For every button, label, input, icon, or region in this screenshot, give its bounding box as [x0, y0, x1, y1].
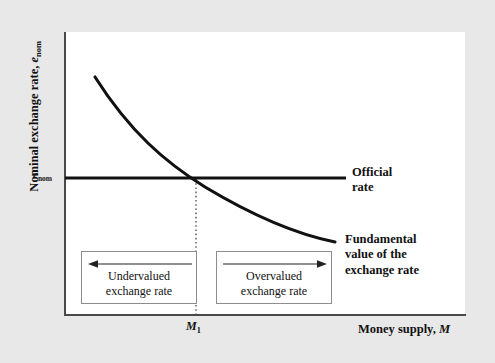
- overvalued-region-line2: exchange rate: [217, 284, 331, 299]
- undervalued-region-line1: Undervalued: [82, 269, 196, 284]
- overvalued-region-box: Overvalued exchange rate: [216, 251, 332, 304]
- fundamental-value-curve: [95, 77, 335, 242]
- x-tick-symbol: M: [186, 319, 197, 333]
- y-axis-title-subscript: nom: [33, 41, 43, 57]
- fundamental-value-label-line3: exchange rate: [345, 263, 419, 278]
- official-rate-label-line1: Official: [352, 165, 392, 180]
- y-axis-title: Nominal exchange rate, enom: [27, 11, 44, 221]
- x-tick-subscript: 1: [197, 326, 201, 335]
- official-rate-label: Official rate: [352, 165, 392, 196]
- y-axis-tick-label: enom: [33, 168, 52, 183]
- x-axis-title-symbol: M: [439, 322, 450, 336]
- fundamental-value-label-line2: value of the: [345, 247, 419, 262]
- undervalued-region-line2: exchange rate: [82, 284, 196, 299]
- undervalued-region-text: Undervalued exchange rate: [82, 269, 196, 298]
- y-tick-subscript: nom: [38, 174, 52, 183]
- right-arrow-icon: [223, 259, 327, 269]
- overvalued-region-line1: Overvalued: [217, 269, 331, 284]
- y-tick-symbol: e: [33, 168, 38, 180]
- plot-graphics: [0, 0, 495, 363]
- x-axis-title: Money supply, M: [358, 322, 450, 337]
- x-axis-tick-label: M1: [186, 319, 201, 335]
- figure-container: Nominal exchange rate, enom Money supply…: [0, 0, 495, 363]
- y-axis-title-symbol: e: [27, 57, 41, 63]
- fundamental-value-label-line1: Fundamental: [345, 232, 419, 247]
- x-axis-title-text: Money supply,: [358, 322, 439, 336]
- undervalued-region-box: Undervalued exchange rate: [81, 251, 197, 304]
- overvalued-region-text: Overvalued exchange rate: [217, 269, 331, 298]
- left-arrow-icon: [88, 259, 192, 269]
- official-rate-label-line2: rate: [352, 180, 392, 195]
- fundamental-value-label: Fundamental value of the exchange rate: [345, 232, 419, 278]
